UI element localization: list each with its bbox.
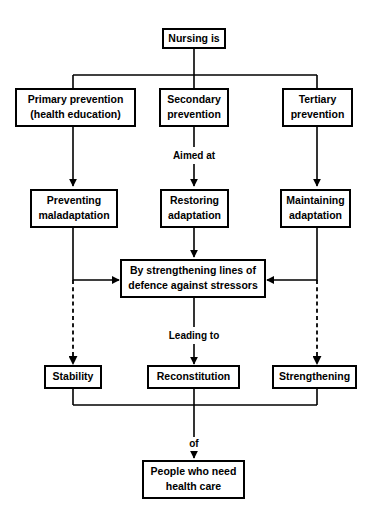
label-tertiary-prevention-line2: prevention bbox=[291, 108, 345, 120]
connector-preventing-to-lines bbox=[73, 227, 119, 280]
label-secondary-prevention-line2: prevention bbox=[167, 108, 221, 120]
label-primary-prevention-line1: Primary prevention bbox=[28, 93, 124, 105]
label-strengthening-lines-line2: defence against stressors bbox=[128, 279, 258, 291]
label-maintaining-line2: adaptation bbox=[289, 209, 342, 221]
label-stability: Stability bbox=[53, 370, 94, 382]
label-reconstitution: Reconstitution bbox=[157, 370, 231, 382]
edge-label-leading-to: Leading to bbox=[169, 330, 220, 341]
label-people-line1: People who need bbox=[151, 465, 237, 477]
label-preventing-line1: Preventing bbox=[47, 194, 101, 206]
label-restoring-line2: adaptation bbox=[168, 209, 221, 221]
label-primary-prevention-line2: (health education) bbox=[30, 108, 120, 120]
label-nursing-is: Nursing is bbox=[168, 32, 220, 44]
edge-label-of: of bbox=[189, 438, 199, 449]
label-tertiary-prevention-line1: Tertiary bbox=[299, 93, 337, 105]
nursing-flowchart: Nursing is Primary prevention (health ed… bbox=[0, 0, 372, 519]
label-strengthening: Strengthening bbox=[279, 370, 350, 382]
connector-maintaining-to-lines bbox=[267, 227, 317, 280]
label-secondary-prevention-line1: Secondary bbox=[167, 93, 221, 105]
label-strengthening-lines-line1: By strengthening lines of bbox=[130, 264, 257, 276]
label-people-line2: health care bbox=[166, 480, 222, 492]
flowchart-canvas: Nursing is Primary prevention (health ed… bbox=[0, 0, 372, 519]
label-restoring-line1: Restoring bbox=[170, 194, 219, 206]
label-maintaining-line1: Maintaining bbox=[286, 194, 344, 206]
edge-label-aimed-at: Aimed at bbox=[173, 150, 216, 161]
label-preventing-line2: maladaptation bbox=[38, 209, 109, 221]
